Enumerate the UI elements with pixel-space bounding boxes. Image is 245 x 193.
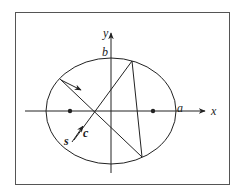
ellipse-diagram: y x b a s c (0, 0, 245, 193)
ray-top-to-bottom (132, 61, 142, 157)
ray-left-to-bottom (60, 79, 142, 157)
semi-major-label: a (177, 101, 183, 115)
x-axis-label: x (210, 104, 217, 118)
s-label: s (63, 134, 69, 148)
focus-right (151, 109, 155, 113)
y-axis-label: y (102, 26, 109, 40)
focus-left (68, 109, 72, 113)
c-label: c (83, 126, 89, 140)
direction-arrow (61, 80, 81, 90)
semi-minor-label: b (102, 45, 108, 59)
c-arrow (72, 126, 83, 142)
